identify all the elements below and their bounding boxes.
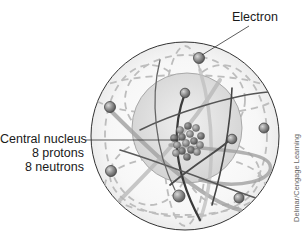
- electron-label: Electron: [232, 10, 278, 24]
- nucleus-label-title: Central nucleus: [0, 132, 84, 146]
- electron: [105, 102, 116, 113]
- electron: [106, 166, 117, 177]
- electron: [180, 88, 190, 98]
- electron: [234, 193, 244, 203]
- nucleus-label: Central nucleus 8 protons 8 neutrons: [0, 132, 84, 174]
- electron: [173, 190, 185, 202]
- electron: [227, 134, 237, 144]
- nucleus-label-neutrons: 8 neutrons: [0, 160, 84, 174]
- oxygen-atom-diagram: [0, 0, 304, 246]
- nucleus-label-protons: 8 protons: [0, 146, 84, 160]
- image-credit: Delmar/Cengage Learning: [292, 134, 301, 222]
- electron: [259, 123, 269, 133]
